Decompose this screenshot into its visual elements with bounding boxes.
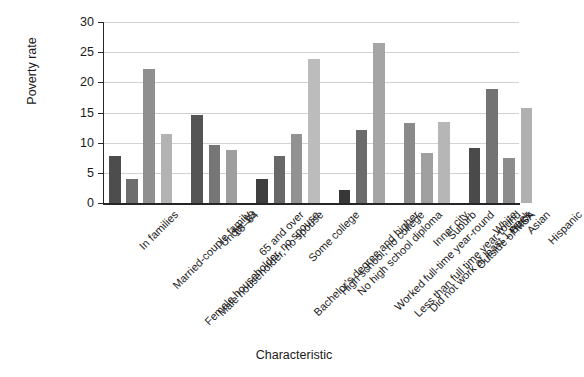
bar [486, 89, 498, 203]
y-tick-label-25: 25 [52, 46, 94, 59]
bar-series [104, 22, 519, 203]
x-tick-label: Hispanic [547, 209, 584, 247]
bar [161, 134, 173, 203]
bar [126, 179, 138, 203]
y-tick-label-5: 5 [52, 167, 94, 180]
x-axis-line [103, 203, 520, 205]
y-tick-label-10: 10 [52, 137, 94, 150]
bar [503, 158, 515, 203]
bar [521, 108, 533, 203]
bar [438, 122, 450, 203]
bar [469, 148, 481, 204]
bar [274, 156, 286, 203]
bar [256, 179, 268, 203]
x-axis-title: Characteristic [0, 348, 542, 362]
y-tick-label-15: 15 [52, 107, 94, 120]
bar [308, 59, 320, 203]
y-tick-label-30: 30 [52, 16, 94, 29]
bar [404, 123, 416, 203]
bar [209, 145, 221, 203]
bar [373, 43, 385, 203]
bar [356, 130, 368, 203]
bar [226, 150, 238, 203]
x-tick-label: In families [137, 209, 180, 252]
bar [109, 156, 121, 203]
y-axis-title: Poverty rate [25, 1, 39, 141]
bar [421, 153, 433, 203]
y-tick-label-20: 20 [52, 76, 94, 89]
x-tick-label: 18–64 [231, 209, 260, 238]
x-axis-title-text: Characteristic [256, 348, 332, 362]
bar [191, 115, 203, 203]
bar [143, 69, 155, 203]
bar [339, 190, 351, 203]
y-tick-label-0: 0 [52, 197, 94, 210]
bar [291, 134, 303, 203]
